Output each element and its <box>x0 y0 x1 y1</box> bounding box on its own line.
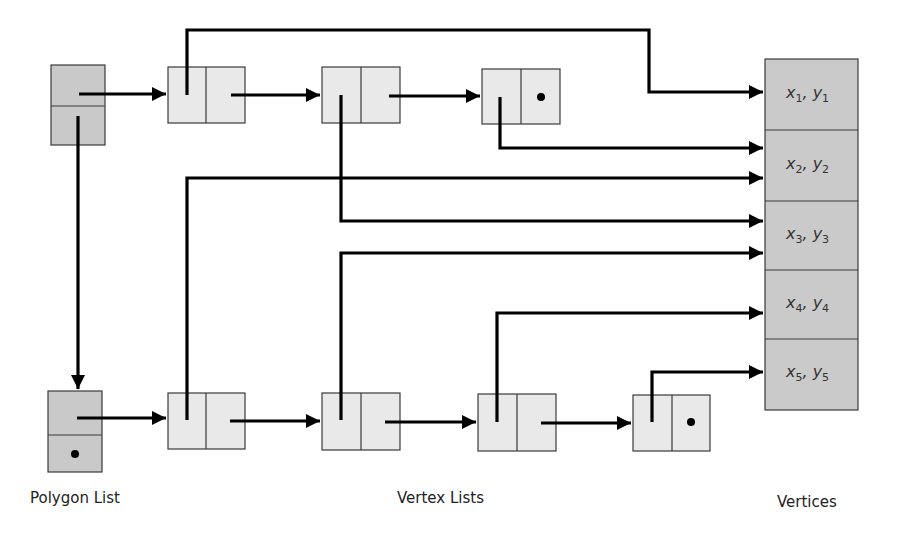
arrow-a-to-v1 <box>187 30 763 95</box>
vertex-node-c <box>482 69 560 124</box>
null-pointer-icon <box>687 418 695 426</box>
arrow-d-to-v2 <box>187 178 763 420</box>
null-pointer-icon <box>71 450 79 458</box>
linked-list-diagram: x1, y1 x2, y2 x3, y3 x4, y4 x5, y5 <box>0 0 903 533</box>
null-pointer-icon <box>537 93 545 101</box>
vertex-node-g <box>633 395 710 451</box>
polygon-node-2 <box>48 391 102 472</box>
vertex-table: x1, y1 x2, y2 x3, y3 x4, y4 x5, y5 <box>765 59 858 410</box>
vertex-lists-label: Vertex Lists <box>397 489 484 507</box>
vertex-node-b <box>322 67 400 123</box>
vertices-label: Vertices <box>777 493 837 511</box>
polygon-list-label: Polygon List <box>30 489 120 507</box>
